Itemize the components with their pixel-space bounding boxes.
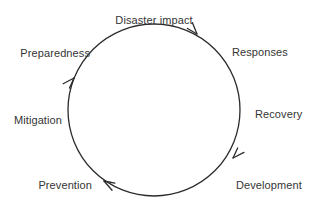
stage-label-mitigation: Mitigation [14,114,62,127]
stage-label-recovery: Recovery [255,108,302,121]
stage-label-disaster-impact: Disaster impact [115,14,192,27]
stage-label-prevention: Prevention [38,179,92,192]
arrow-bottom-right-icon [231,147,244,161]
stage-label-responses: Responses [232,46,288,59]
disaster-cycle-diagram: Disaster impact Responses Recovery Devel… [0,0,312,210]
stage-label-development: Development [236,179,302,192]
cycle-circle-path [68,24,240,196]
stage-label-preparedness: Preparedness [20,47,90,60]
